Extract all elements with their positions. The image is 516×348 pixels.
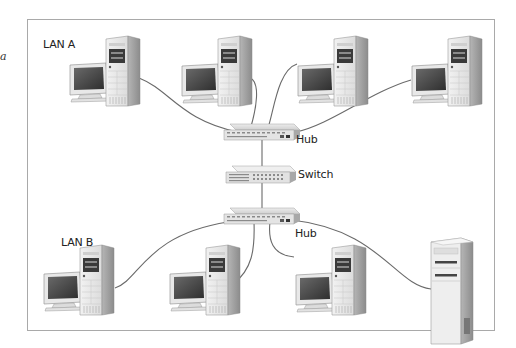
hub-bottom-label: Hub (295, 227, 317, 240)
lan-a-workstation-4 (412, 36, 482, 106)
lan-b-label: LAN B (61, 236, 93, 249)
tower-pc-icon (218, 36, 252, 106)
diagram-graphics (0, 0, 516, 348)
hub-icon (224, 124, 300, 140)
tower-pc-icon (80, 245, 114, 315)
tower-pc-icon (332, 245, 366, 315)
switch-label: Switch (298, 168, 333, 181)
tower-pc-icon (206, 245, 240, 315)
cable-b3 (270, 222, 294, 257)
lan-a-workstation-1 (70, 36, 140, 106)
lan-b-server (431, 238, 473, 344)
lan-a-label: LAN A (43, 38, 75, 51)
network-diagram: a (0, 0, 516, 348)
lan-b-workstation-3 (296, 245, 366, 315)
lan-b-workstation-2 (170, 245, 240, 315)
tower-pc-icon (334, 36, 368, 106)
hub-top-label: Hub (296, 133, 318, 146)
switch-icon (226, 166, 296, 183)
hub-icon (224, 208, 300, 224)
lan-a-workstation-3 (298, 36, 368, 106)
server-icon (431, 238, 473, 344)
tower-pc-icon (106, 36, 140, 106)
cable-a3 (268, 64, 297, 128)
lan-a-workstation-2 (182, 36, 252, 106)
tower-pc-icon (448, 36, 482, 106)
lan-b-workstation-1 (44, 245, 114, 315)
